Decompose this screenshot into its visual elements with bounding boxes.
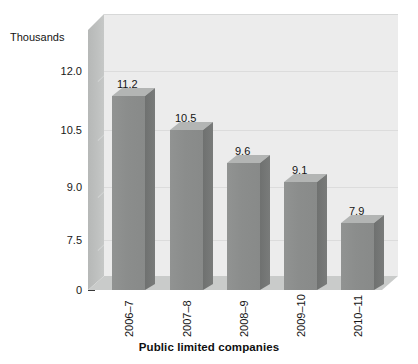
y-tick-label-3: 7.5 xyxy=(67,235,82,246)
x-tick-label-4: 2010–11 xyxy=(353,295,364,337)
x-axis-title: Public limited companies xyxy=(0,341,418,353)
bar-2008-9 xyxy=(227,155,270,290)
gridline-side-10-5 xyxy=(88,130,104,145)
gridline-12-0 xyxy=(104,71,398,72)
bar-front-face xyxy=(284,182,317,290)
x-tick-label-2: 2008–9 xyxy=(239,300,250,337)
bar-front-face xyxy=(341,223,374,290)
bar-value-label-4: 7.9 xyxy=(349,206,364,217)
bar-side-face xyxy=(317,174,327,290)
bar-side-face xyxy=(203,122,213,290)
x-tick-label-1: 2007–8 xyxy=(182,300,193,337)
bar-front-face xyxy=(112,96,145,290)
x-tick-label-3: 2009–10 xyxy=(296,294,307,337)
bar-front-face xyxy=(170,130,203,290)
y-tick-label-0: 12.0 xyxy=(61,66,82,77)
bar-chart: 12.0 10.5 9.0 7.5 0 Thousands 11.2 10.5 … xyxy=(0,0,418,364)
bar-2006-7 xyxy=(112,88,155,290)
bar-2010-11 xyxy=(341,215,384,290)
x-tick-label-0: 2006–7 xyxy=(124,300,135,337)
chart-wall-top-edge xyxy=(104,14,398,15)
bar-value-label-3: 9.1 xyxy=(292,165,307,176)
units-label: Thousands xyxy=(10,31,64,43)
y-axis-zero-tick xyxy=(88,290,95,291)
bar-side-face xyxy=(145,88,155,290)
gridline-side-7-5 xyxy=(88,240,104,255)
bar-side-face xyxy=(260,155,270,290)
gridline-side-12-0 xyxy=(88,71,104,86)
bar-value-label-0: 11.2 xyxy=(117,79,138,90)
y-tick-label-4: 0 xyxy=(76,285,82,296)
bar-value-label-1: 10.5 xyxy=(175,113,196,124)
bar-2009-10 xyxy=(284,174,327,290)
gridline-side-9-0 xyxy=(88,187,104,202)
y-tick-label-2: 9.0 xyxy=(67,182,82,193)
bar-side-face xyxy=(374,215,384,290)
bar-2007-8 xyxy=(170,122,213,290)
y-tick-label-1: 10.5 xyxy=(61,125,82,136)
bar-front-face xyxy=(227,163,260,290)
bar-value-label-2: 9.6 xyxy=(235,146,250,157)
